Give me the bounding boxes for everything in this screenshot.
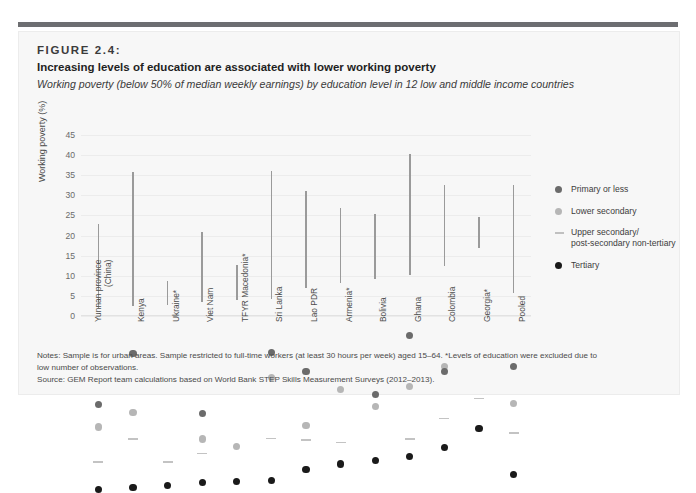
marker-tertiary[interactable] [372, 457, 379, 464]
y-axis-tick: 0 [70, 311, 75, 321]
y-axis-tick: 15 [65, 251, 75, 261]
figure-notes: Notes: Sample is for urban areas. Sample… [37, 350, 661, 386]
y-axis-tick: 40 [65, 150, 75, 160]
connector-stem [444, 185, 446, 266]
legend-dot-icon [555, 186, 562, 193]
grid-line [81, 316, 531, 317]
marker-lower-secondary[interactable] [337, 386, 344, 393]
grid-line [81, 175, 531, 176]
marker-upper-secondary[interactable] [439, 418, 449, 420]
y-axis-tick: 5 [70, 291, 75, 301]
marker-tertiary[interactable] [337, 460, 344, 467]
marker-upper-secondary[interactable] [93, 461, 103, 463]
connector-stem [478, 217, 480, 247]
x-axis-label: Colombia [447, 287, 457, 322]
legend-item-label: Lower secondary [571, 206, 636, 216]
connector-stem [513, 185, 515, 293]
marker-tertiary[interactable] [95, 486, 102, 493]
y-axis-tick: 45 [65, 130, 75, 140]
x-axis-label: Kenya [136, 298, 146, 322]
x-axis-label: Bolivia [378, 297, 388, 322]
figure-title: Increasing levels of education are assoc… [37, 61, 436, 73]
marker-tertiary[interactable] [441, 444, 448, 451]
legend-item[interactable]: Lower secondary [555, 206, 696, 217]
y-axis-tick: 20 [65, 231, 75, 241]
marker-upper-secondary[interactable] [197, 453, 207, 455]
figure-card: FIGURE 2.4: Increasing levels of educati… [18, 31, 680, 395]
legend-item[interactable]: Primary or less [555, 184, 696, 195]
connector-stem [271, 171, 273, 299]
marker-tertiary[interactable] [233, 478, 240, 485]
marker-tertiary[interactable] [302, 466, 309, 473]
marker-tertiary[interactable] [164, 482, 171, 489]
legend-item[interactable]: Upper secondary/post-secondary non-terti… [555, 227, 696, 248]
marker-upper-secondary[interactable] [163, 461, 173, 463]
x-axis-label: Ghana [413, 297, 423, 322]
legend-item-label: Tertiary [571, 260, 599, 270]
chart-legend: Primary or lessLower secondaryUpper seco… [555, 184, 696, 282]
y-axis-tick: 25 [65, 210, 75, 220]
x-axis-label: Georgia* [482, 289, 492, 322]
marker-upper-secondary[interactable] [474, 398, 484, 400]
x-axis-label: Viet Nam [205, 288, 215, 322]
x-axis-label: Yunnan province(China) [94, 260, 113, 322]
marker-upper-secondary[interactable] [266, 438, 276, 440]
marker-upper-secondary[interactable] [336, 442, 346, 444]
connector-stem [409, 154, 411, 275]
marker-upper-secondary[interactable] [509, 432, 519, 434]
notes-line-1: Notes: Sample is for urban areas. Sample… [37, 350, 661, 362]
marker-tertiary[interactable] [199, 479, 206, 486]
notes-source: Source: GEM Report team calculations bas… [37, 374, 661, 386]
legend-item-label: Primary or less [571, 184, 628, 194]
marker-tertiary[interactable] [510, 471, 517, 478]
marker-lower-secondary[interactable] [372, 403, 379, 410]
marker-upper-secondary[interactable] [128, 438, 138, 440]
marker-lower-secondary[interactable] [302, 422, 309, 429]
connector-stem [236, 265, 238, 300]
connector-stem [201, 232, 203, 301]
marker-lower-secondary[interactable] [95, 423, 102, 430]
marker-upper-secondary[interactable] [301, 439, 311, 441]
y-axis-tick: 30 [65, 190, 75, 200]
marker-upper-secondary[interactable] [405, 438, 415, 440]
connector-stem [340, 208, 342, 283]
connector-stem [374, 214, 376, 280]
connector-stem [305, 191, 307, 289]
x-axis-label: Pooled [517, 296, 527, 322]
marker-lower-secondary[interactable] [129, 409, 136, 416]
connector-stem [132, 172, 134, 306]
y-axis-tick: 10 [65, 271, 75, 281]
marker-lower-secondary[interactable] [510, 400, 517, 407]
grid-line [81, 135, 531, 136]
y-axis-tick: 35 [65, 170, 75, 180]
y-axis-label: Working poverty (%) [37, 101, 47, 182]
marker-tertiary[interactable] [406, 453, 413, 460]
figure-number: FIGURE 2.4: [37, 44, 121, 56]
connector-stem [167, 281, 169, 305]
x-axis-label: Ukraine* [171, 290, 181, 322]
x-axis-label: TFYR Macedonia* [240, 254, 250, 322]
marker-primary-or-less[interactable] [95, 401, 102, 408]
x-axis-label: Armenia* [344, 288, 354, 322]
marker-primary-or-less[interactable] [199, 410, 206, 417]
legend-dot-icon [555, 208, 562, 215]
marker-tertiary[interactable] [268, 477, 275, 484]
marker-lower-secondary[interactable] [233, 443, 240, 450]
figure-subtitle: Working poverty (below 50% of median wee… [37, 78, 574, 90]
marker-lower-secondary[interactable] [199, 435, 206, 442]
legend-item-label: Upper secondary/post-secondary non-terti… [571, 227, 676, 248]
legend-dash-icon [555, 232, 564, 234]
marker-primary-or-less[interactable] [372, 391, 379, 398]
legend-item[interactable]: Tertiary [555, 260, 696, 271]
marker-tertiary[interactable] [475, 425, 482, 432]
top-rule [18, 22, 678, 27]
legend-dot-icon [555, 262, 562, 269]
grid-line [81, 155, 531, 156]
marker-primary-or-less[interactable] [406, 332, 413, 339]
x-axis-label: Sri Lanka [274, 287, 284, 322]
notes-line-2: low number of observations. [37, 362, 661, 374]
plot-area: 051015202530354045Yunnan province(China)… [81, 135, 531, 316]
marker-tertiary[interactable] [129, 484, 136, 491]
grid-line [81, 296, 531, 297]
